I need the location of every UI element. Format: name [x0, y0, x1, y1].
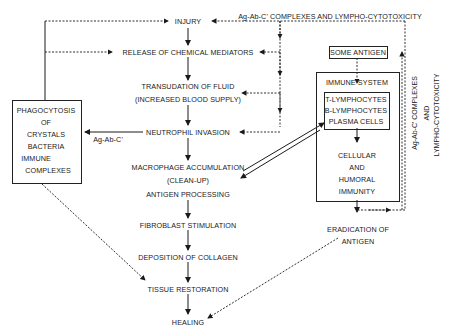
side-label-line-1: Ag-Ab-C' COMPLEXES [410, 58, 419, 168]
immunity-line-3: HUMORAL [339, 175, 376, 184]
node-healing: HEALING [172, 318, 204, 327]
ag-ab-c-label: Ag-Ab-C' [93, 135, 123, 144]
eradication-line-2: ANTIGEN [342, 237, 375, 246]
phago-line-5: IMMUNE [21, 154, 51, 163]
b-lymphocytes: B-LYMPHOCYTES [325, 106, 387, 115]
immune-system-title: IMMUNE SYSTEM [326, 78, 388, 87]
node-transudation-sub: (INCREASED BLOOD SUPPLY) [135, 95, 241, 104]
side-label-line-2: AND [422, 98, 431, 128]
node-antigen-processing: ANTIGEN PROCESSING [146, 190, 230, 199]
immunity-line-1: CELLULAR [338, 151, 376, 160]
node-transudation: TRANSUDATION OF FLUID [141, 82, 234, 91]
immunity-line-4: IMMUNITY [339, 187, 375, 196]
node-cleanup: (CLEAN-UP) [167, 176, 209, 185]
phago-line-3: CRYSTALS [27, 130, 65, 139]
side-label-line-3: LYMPHO-CYTOTOXICITY [432, 60, 441, 170]
node-macrophage: MACROPHAGE ACCUMULATION [132, 163, 245, 172]
phago-line-4: BACTERIA [28, 142, 65, 151]
node-collagen: DEPOSITION OF COLLAGEN [138, 253, 238, 262]
inflammation-healing-diagram: INJURY RELEASE OF CHEMICAL MEDIATORS TRA… [0, 0, 449, 332]
node-neutrophil: NEUTROPHIL INVASION [146, 128, 230, 137]
top-complexes-label: Ag-Ab-C' COMPLEXES AND LYMPHO-CYTOTOXICI… [238, 12, 422, 21]
some-antigen-label: SOME ANTIGEN [330, 48, 386, 57]
plasma-cells: PLASMA CELLS [329, 117, 384, 126]
immunity-line-2: AND [349, 163, 364, 172]
phago-line-6: COMPLEXES [25, 166, 71, 175]
node-release-mediators: RELEASE OF CHEMICAL MEDIATORS [123, 48, 254, 57]
phago-line-2: OF [41, 118, 51, 127]
node-fibroblast: FIBROBLAST STIMULATION [140, 221, 237, 230]
phago-line-1: PHAGOCYTOSIS [17, 106, 76, 115]
node-injury: INJURY [175, 17, 201, 26]
t-lymphocytes: T-LYMPHOCYTES [325, 95, 386, 104]
node-tissue-restoration: TISSUE RESTORATION [147, 285, 228, 294]
eradication-line-1: ERADICATION OF [327, 225, 389, 234]
